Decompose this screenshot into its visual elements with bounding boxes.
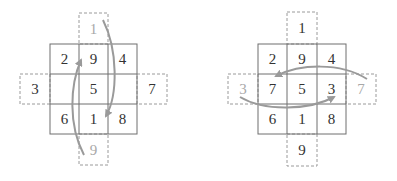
magic-square-diagram: 2 9 4 5 6 1 8 1 3 7 9 2 9 4 7 5 3 6 1 8 [0, 0, 397, 181]
left-diagram: 2 9 4 5 6 1 8 1 3 7 9 [20, 13, 167, 165]
cell-r0c2: 4 [328, 51, 336, 67]
outside-left: 3 [31, 81, 39, 97]
cell-r0c0: 2 [269, 51, 277, 67]
cell-r0c0: 2 [61, 51, 69, 67]
cell-r2c1: 1 [298, 111, 306, 127]
cell-r2c2: 8 [119, 111, 127, 127]
outside-bottom: 9 [90, 142, 98, 158]
cell-r2c0: 6 [269, 111, 277, 127]
outside-left: 3 [239, 81, 247, 97]
arrow-down-icon [103, 20, 115, 116]
cell-r0c2: 4 [119, 51, 127, 67]
cell-r0c1: 9 [90, 51, 98, 67]
cell-r1c0: 7 [269, 81, 277, 97]
cell-r1c1: 5 [298, 81, 306, 97]
cell-r2c1: 1 [90, 111, 98, 127]
arrow-left-icon [276, 67, 367, 79]
outside-bottom: 9 [298, 142, 306, 158]
cell-r2c2: 8 [328, 111, 336, 127]
outside-top: 1 [90, 21, 98, 37]
cell-r1c1: 5 [90, 81, 98, 97]
outside-top: 1 [298, 20, 306, 36]
cell-r0c1: 9 [298, 51, 306, 67]
cell-r1c2: 3 [328, 81, 336, 97]
right-diagram: 2 9 4 7 5 3 6 1 8 1 3 7 9 [228, 12, 376, 166]
outside-right: 7 [357, 81, 365, 97]
outside-right: 7 [148, 81, 156, 97]
cell-r2c0: 6 [61, 111, 69, 127]
